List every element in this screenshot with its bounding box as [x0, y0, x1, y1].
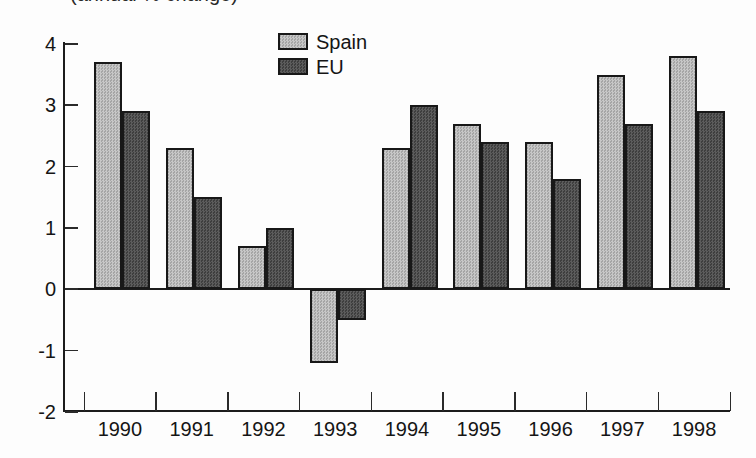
bar-spain-1992: [238, 246, 266, 289]
bar-eu-1994: [410, 105, 438, 289]
x-tick-label-1997: 1997: [600, 419, 645, 439]
bar-spain-1997: [597, 75, 625, 290]
y-tick-2: [65, 166, 78, 168]
cropped-caption-text: (annual % change): [70, 0, 238, 5]
bar-eu-1996: [553, 179, 581, 289]
x-tick-3: [299, 392, 301, 411]
y-tick-label--2: -2: [14, 402, 56, 422]
y-tick--2: [65, 411, 78, 413]
x-tick-1: [155, 392, 157, 411]
x-tick-5: [442, 392, 444, 411]
x-tick-label-1998: 1998: [672, 419, 717, 439]
y-tick-label-2: 2: [14, 157, 56, 177]
legend-item-spain: Spain: [278, 33, 367, 50]
bar-eu-1990: [122, 111, 150, 289]
legend-swatch-eu: [278, 58, 308, 75]
y-tick-label--1: -1: [14, 341, 56, 361]
bar-eu-1991: [194, 197, 222, 289]
x-tick-7: [586, 392, 588, 411]
y-tick-label-3: 3: [14, 95, 56, 115]
bar-spain-1994: [382, 148, 410, 289]
legend-item-eu: EU: [278, 58, 367, 75]
legend-label-spain: Spain: [316, 32, 367, 52]
chart-figure: (annual % change) 43210-1-21990199119921…: [0, 0, 756, 458]
x-tick-9: [730, 392, 732, 411]
x-axis-line: [63, 410, 730, 412]
cropped-caption: (annual % change): [70, 0, 310, 5]
y-tick--1: [65, 350, 78, 352]
y-tick-3: [65, 104, 78, 106]
legend-label-eu: EU: [316, 57, 344, 77]
x-tick-8: [658, 392, 660, 411]
bar-spain-1995: [453, 124, 481, 290]
bar-spain-1998: [669, 56, 697, 289]
y-tick-0: [65, 288, 78, 290]
x-tick-6: [514, 392, 516, 411]
bar-eu-1993: [338, 289, 366, 320]
x-tick-label-1991: 1991: [169, 419, 214, 439]
legend: Spain EU: [278, 33, 367, 83]
x-tick-label-1994: 1994: [385, 419, 430, 439]
x-tick-label-1995: 1995: [457, 419, 502, 439]
x-tick-label-1996: 1996: [528, 419, 573, 439]
x-tick-4: [371, 392, 373, 411]
y-tick-1: [65, 227, 78, 229]
y-tick-label-0: 0: [14, 279, 56, 299]
bar-spain-1993: [310, 289, 338, 363]
legend-swatch-spain: [278, 33, 308, 50]
x-tick-label-1992: 1992: [241, 419, 286, 439]
bar-eu-1995: [481, 142, 509, 289]
y-tick-label-1: 1: [14, 218, 56, 238]
bar-spain-1996: [525, 142, 553, 289]
bar-eu-1992: [266, 228, 294, 289]
bar-eu-1997: [625, 124, 653, 290]
x-tick-2: [227, 392, 229, 411]
y-tick-4: [65, 43, 78, 45]
x-tick-label-1990: 1990: [98, 419, 143, 439]
y-tick-label-4: 4: [14, 34, 56, 54]
x-tick-label-1993: 1993: [313, 419, 358, 439]
bar-eu-1998: [697, 111, 725, 289]
bar-spain-1991: [166, 148, 194, 289]
x-tick-0: [84, 392, 86, 411]
bar-spain-1990: [94, 62, 122, 289]
